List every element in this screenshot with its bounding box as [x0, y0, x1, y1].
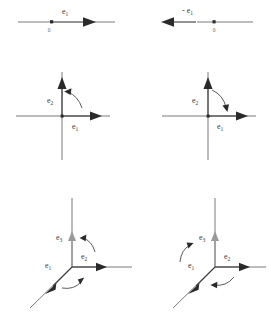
vector-label-e1: e1: [45, 261, 52, 271]
vector-e1-arrowhead: [83, 17, 96, 27]
rotation-arrowhead-upper: [187, 242, 194, 248]
rotation-arc-cw: [212, 90, 226, 107]
origin-dot: [213, 20, 216, 23]
rotation-arrowhead-lower: [78, 278, 84, 285]
vector-label-e2: e2: [224, 252, 231, 262]
rotation-arrowhead-lower: [210, 282, 217, 288]
panel-row3-right: e3 e2 e1: [173, 198, 266, 308]
vector-e1-arrowhead: [236, 112, 248, 121]
vector-label-e2: e2: [47, 96, 54, 106]
vector-label-e2: e2: [81, 252, 88, 262]
panel-row3-left: e3 e2 e1: [30, 198, 132, 308]
vector-e3-arrowhead: [68, 231, 76, 241]
vector-e2-arrowhead: [58, 77, 67, 89]
rotation-arrowhead-upper: [80, 235, 87, 242]
vector-label-e3: e3: [56, 233, 63, 243]
figure-canvas: e1 0 - e1 0 e2 e1 e2: [0, 0, 271, 319]
vector-e1-arrowhead: [90, 112, 102, 121]
origin-dot: [207, 115, 210, 118]
vector-e2-arrowhead: [239, 263, 250, 271]
panel-row1-right: - e1 0: [161, 6, 253, 33]
origin-label: 0: [213, 27, 216, 33]
panel-row2-left: e2 e1: [16, 72, 110, 160]
vector-e3-arrowhead: [211, 231, 219, 241]
rotation-arc-lower: [62, 282, 81, 288]
rotation-arrowhead-ccw: [64, 88, 71, 95]
origin-label: 0: [48, 27, 51, 33]
origin-dot: [50, 20, 53, 23]
vector-e2-arrowhead: [96, 263, 107, 271]
vector-neg-e1-arrowhead: [161, 17, 174, 27]
vector-label-neg-e1: - e1: [182, 6, 193, 16]
vector-e1-arrowhead: [188, 283, 199, 294]
panel-row2-right: e2 e1: [162, 72, 256, 160]
vector-e1-shaft: [196, 267, 215, 286]
vector-label-e1: e1: [62, 7, 69, 17]
panel-row1-left: e1 0: [18, 7, 115, 33]
vector-e2-arrowhead: [204, 77, 213, 89]
vector-e1-shaft: [53, 267, 72, 286]
rotation-arrowhead-cw: [222, 104, 229, 112]
origin-dot: [61, 115, 64, 118]
vector-label-e1: e1: [188, 261, 195, 271]
vector-label-e1: e1: [72, 122, 79, 132]
vector-label-e1: e1: [217, 122, 224, 132]
vector-label-e2: e2: [192, 96, 199, 106]
vector-label-e3: e3: [199, 233, 206, 243]
